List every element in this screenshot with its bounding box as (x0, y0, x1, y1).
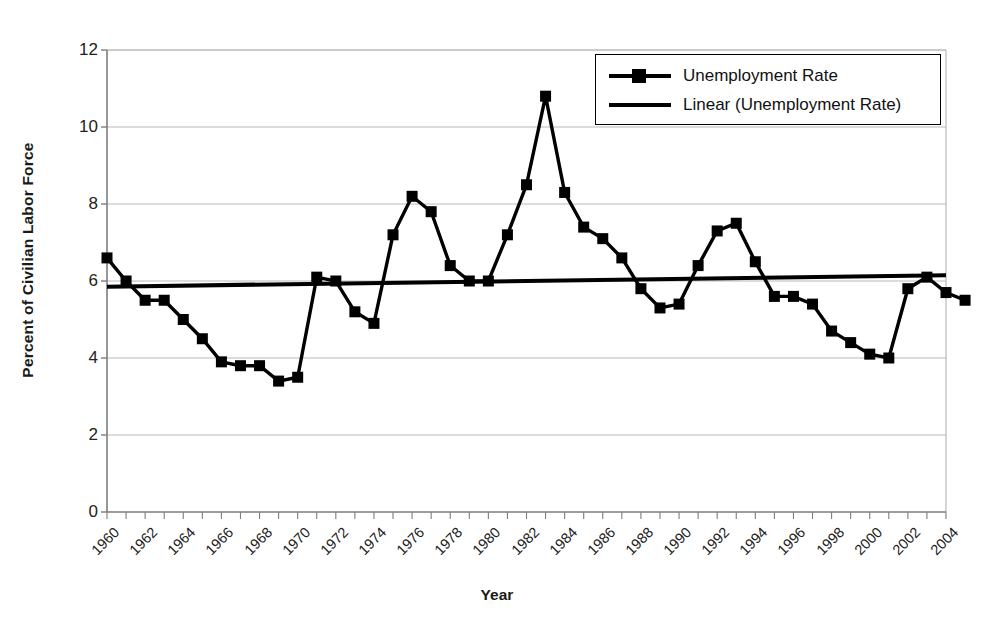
legend-marker-line-icon (606, 95, 674, 115)
legend-label-unemployment-rate: Unemployment Rate (674, 66, 838, 86)
chart-legend: Unemployment Rate Linear (Unemployment R… (595, 54, 941, 125)
x-axis-title: Year (0, 586, 994, 604)
legend-item-unemployment-rate: Unemployment Rate (606, 61, 930, 90)
unemployment-rate-chart: Percent of Civilian Labor Force 02468101… (0, 0, 994, 641)
legend-marker-line-square-icon (606, 66, 674, 86)
legend-item-linear-trend: Linear (Unemployment Rate) (606, 90, 930, 119)
legend-label-linear-trend: Linear (Unemployment Rate) (674, 95, 901, 115)
